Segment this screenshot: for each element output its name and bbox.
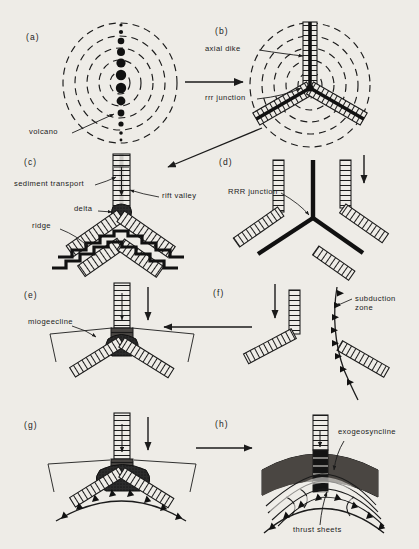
panel-letter-f: (f) [213, 289, 224, 299]
label-axial-dike: axial dike [205, 45, 241, 54]
panel-letter-d: (d) [219, 158, 233, 168]
label-rrr-junction-caps: RRR junction [228, 188, 278, 197]
label-rift-valley: rift valley [162, 192, 196, 201]
panel-letter-e: (e) [24, 291, 38, 301]
label-volcano: volcano [29, 128, 58, 137]
panel-g-rift [111, 413, 133, 471]
panel-letter-c: (c) [24, 158, 37, 168]
label-rrr-junction: rrr junction [205, 94, 246, 103]
panel-letter-b: (b) [215, 27, 229, 37]
label-exogeosyncline: exogeosyncline [338, 428, 396, 437]
label-thrust-sheets: thrust sheets [293, 526, 342, 535]
label-miogeocline: miogeecline [28, 318, 73, 327]
panel-letter-a: (a) [26, 33, 40, 43]
label-ridge: ridge [32, 222, 51, 231]
panel-letter-g: (g) [24, 421, 38, 431]
label-delta: delta [74, 205, 92, 214]
label-sediment-transport: sediment transport [14, 180, 84, 189]
geology-evolution-figure [0, 0, 419, 549]
panel-letter-h: (h) [215, 420, 229, 430]
label-subduction-zone: subduction zone [355, 294, 396, 313]
panel-c-rift-valley [113, 154, 130, 210]
panel-e-rift [111, 283, 133, 342]
